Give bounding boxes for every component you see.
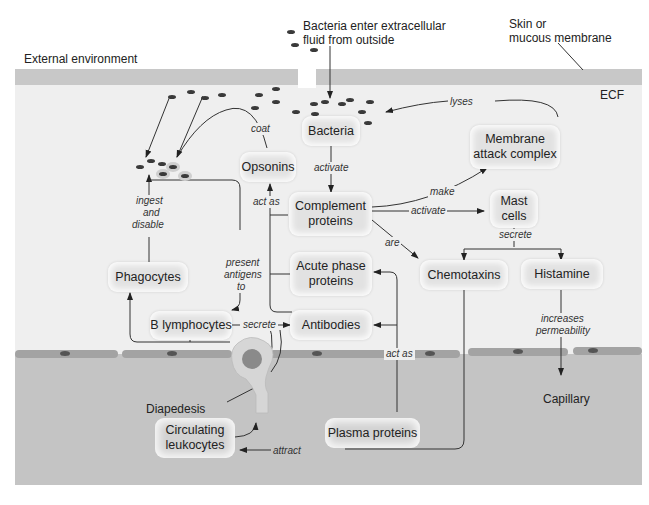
bacterium-icon xyxy=(321,100,329,104)
bacterium-icon xyxy=(251,106,259,110)
edge-label-act-as-opsonins: act as xyxy=(251,196,282,208)
bacterium-icon xyxy=(338,102,346,106)
node-histamine-label: Histamine xyxy=(534,267,590,282)
bacterium-icon xyxy=(310,102,318,106)
edge-label-present: present xyxy=(224,257,261,269)
node-complement-label-2: proteins xyxy=(308,214,352,229)
edge-label-attract: attract xyxy=(271,445,303,457)
node-opsonins: Opsonins xyxy=(240,152,296,182)
bacterium-icon xyxy=(201,96,209,100)
edge-label-activate-mast: activate xyxy=(409,205,447,217)
bacterium-icon xyxy=(168,95,176,99)
edge-label-permeability: permeability xyxy=(534,325,592,337)
node-mast-label-2: cells xyxy=(501,209,526,224)
opsonized-bacterium-icon xyxy=(181,174,189,178)
bacterium-icon xyxy=(364,121,372,125)
node-bacteria-label: Bacteria xyxy=(308,124,354,139)
skin-label-line2: mucous membrane xyxy=(509,31,612,46)
node-antibodies-label: Antibodies xyxy=(302,318,360,333)
node-chemotaxins-label: Chemotaxins xyxy=(428,268,501,283)
node-mast-label-1: Mast xyxy=(500,194,527,209)
node-circulating-label-1: Circulating xyxy=(165,423,224,438)
node-opsonins-label: Opsonins xyxy=(242,160,295,175)
bacterium-icon xyxy=(136,165,144,169)
external-environment-label: External environment xyxy=(24,52,137,67)
node-acute-phase-proteins: Acute phaseproteins xyxy=(290,252,372,296)
node-membrane-attack-complex: Membraneattack complex xyxy=(470,125,560,169)
edge-label-act-as-plasma: act as xyxy=(384,348,415,360)
edge-label-to: to xyxy=(235,281,247,293)
node-complement-proteins: Complementproteins xyxy=(289,192,372,236)
edge-label-disable: disable xyxy=(130,219,166,231)
node-acute-label-1: Acute phase xyxy=(296,259,366,274)
edge-label-secrete-b: secrete xyxy=(241,319,278,331)
opsonized-bacterium-icon xyxy=(159,172,167,176)
node-circulating-label-2: leukocytes xyxy=(165,438,224,453)
node-phagocytes: Phagocytes xyxy=(108,262,188,292)
node-chemotaxins: Chemotaxins xyxy=(420,260,508,290)
bacterium-icon xyxy=(346,98,354,102)
bacterium-icon xyxy=(272,100,280,104)
node-antibodies: Antibodies xyxy=(290,310,372,340)
diapedesis-label: Diapedesis xyxy=(146,402,205,417)
node-b-lymphocytes-label: B lymphocytes xyxy=(150,318,231,333)
opsonized-bacterium-icon xyxy=(169,165,177,169)
node-acute-label-2: proteins xyxy=(309,274,353,289)
bacterium-icon xyxy=(291,43,299,47)
bacterium-icon xyxy=(292,110,300,114)
bacterium-icon xyxy=(158,162,166,166)
edge-label-ingest: ingest xyxy=(134,195,165,207)
node-complement-label-1: Complement xyxy=(295,199,366,214)
node-plasma-proteins: Plasma proteins xyxy=(325,418,420,448)
edge-label-make: make xyxy=(428,186,456,198)
bacterium-icon xyxy=(287,30,295,34)
edge-label-activate-complement: activate xyxy=(312,162,350,174)
bacterium-icon xyxy=(310,48,318,52)
bacterium-icon xyxy=(358,110,366,114)
capillary-label: Capillary xyxy=(543,392,590,407)
ecf-label: ECF xyxy=(600,88,624,103)
bacterium-icon xyxy=(255,93,263,97)
edge-label-increases: increases xyxy=(539,313,586,325)
edge-label-lyses: lyses xyxy=(448,96,475,108)
node-plasma-proteins-label: Plasma proteins xyxy=(328,426,418,441)
node-mac-label-2: attack complex xyxy=(473,147,556,162)
node-phagocytes-label: Phagocytes xyxy=(115,270,180,285)
edge-label-are: are xyxy=(383,237,401,249)
node-circulating-leukocytes: Circulatingleukocytes xyxy=(155,418,235,458)
bacterium-icon xyxy=(147,159,155,163)
skin-label-line1: Skin or xyxy=(509,17,546,32)
bacterium-icon xyxy=(272,87,280,91)
edge-label-and: and xyxy=(141,207,162,219)
node-bacteria: Bacteria xyxy=(302,116,360,146)
leukocyte-diapedesis-icon xyxy=(228,335,288,419)
bacterium-icon xyxy=(187,90,195,94)
edge-label-coat: coat xyxy=(249,123,272,135)
edge-label-antigens: antigens xyxy=(222,269,264,281)
edge-label-secrete-mast: secrete xyxy=(497,229,534,241)
node-b-lymphocytes: B lymphocytes xyxy=(150,311,232,340)
bacterium-icon xyxy=(366,100,374,104)
node-mac-label-1: Membrane xyxy=(485,132,545,147)
bacteria-enter-label-line2: fluid from outside xyxy=(303,33,394,48)
node-mast-cells: Mastcells xyxy=(490,190,538,228)
bacteria-enter-label-line1: Bacteria enter extracellular xyxy=(303,19,446,34)
node-histamine: Histamine xyxy=(521,259,603,289)
bacterium-icon xyxy=(218,93,226,97)
